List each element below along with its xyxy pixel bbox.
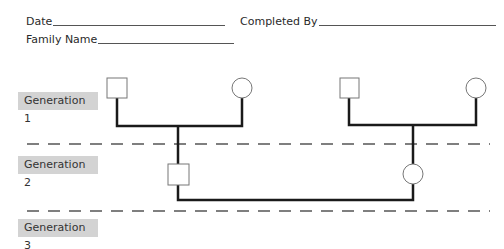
gen1-male-square-icon[interactable] <box>107 78 127 98</box>
gen2-male-square-icon[interactable] <box>168 164 189 185</box>
gen1-male-square-icon[interactable] <box>340 78 359 98</box>
pedigree-diagram <box>0 0 504 249</box>
generation-2-marriage-line <box>178 184 413 200</box>
gen2-female-circle-icon[interactable] <box>403 164 423 184</box>
right-couple-lines <box>349 98 476 164</box>
gen1-female-circle-icon[interactable] <box>232 78 252 98</box>
left-couple-lines <box>117 98 242 164</box>
gen1-female-circle-icon[interactable] <box>466 78 486 98</box>
